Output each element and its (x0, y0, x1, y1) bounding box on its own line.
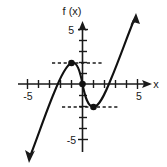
curve-arrow-lower-left-icon (25, 150, 35, 163)
y-tick-label-negative-5: -5 (67, 134, 76, 146)
x-tick-label-negative-5: -5 (23, 90, 32, 102)
local-minimum-point-marker (90, 104, 97, 111)
curve-arrow-upper-right-icon (131, 13, 141, 25)
x-tick-label-positive-5: 5 (136, 90, 142, 102)
local-maximum-point-marker (68, 60, 75, 67)
x-axis-label: x (153, 78, 159, 90)
cubic-function-graph: f (x) x 5 -5 -5 5 (0, 0, 167, 167)
y-tick-label-positive-5: 5 (68, 24, 74, 36)
inflection-origin-point-marker (79, 81, 86, 88)
y-axis-label: f (x) (63, 5, 82, 17)
graph-canvas: f (x) x 5 -5 -5 5 (0, 0, 167, 167)
